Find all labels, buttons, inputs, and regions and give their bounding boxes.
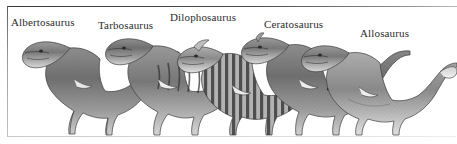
label-tarbosaurus: Tarbosaurus [98, 20, 153, 31]
label-ceratosaurus: Ceratosaurus [264, 19, 323, 30]
label-dilophosaurus: Dilophosaurus [170, 12, 236, 23]
dinosaur-illustration-plate: Albertosaurus Tarbosaurus Dilophosaurus … [0, 0, 457, 144]
frame-rule-bottom [8, 136, 456, 137]
label-allosaurus: Allosaurus [360, 28, 409, 39]
label-albertosaurus: Albertosaurus [11, 17, 75, 28]
